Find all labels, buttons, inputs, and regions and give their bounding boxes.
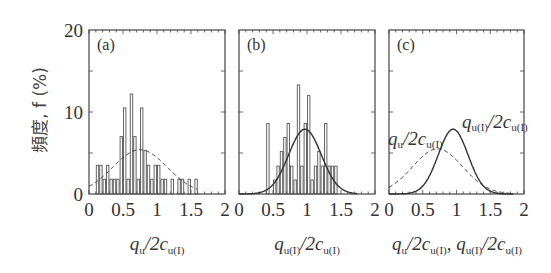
histogram-bar (120, 137, 122, 194)
histogram-bar (154, 165, 156, 194)
histogram-bar (195, 179, 197, 194)
x-tick-label: 1.5 (179, 199, 203, 220)
panel-a: 00.511.52(a) (84, 30, 230, 220)
plot-frame (89, 30, 225, 194)
histogram-bar (130, 94, 132, 194)
histogram-bar (113, 179, 115, 194)
histogram-bar (117, 179, 119, 194)
histogram-bar (277, 166, 279, 194)
histogram-bar (164, 179, 166, 194)
histogram-bar (304, 123, 306, 194)
x-tick-label: 0.5 (261, 199, 285, 220)
histogram-bar (96, 165, 98, 194)
y-axis-label: 頻度, f (%) (30, 67, 50, 153)
histogram-bar (161, 179, 163, 194)
histogram-bar (321, 166, 323, 194)
histogram-bar (107, 165, 109, 194)
distribution-curve (389, 149, 513, 194)
plot-frame (239, 30, 375, 194)
x-tick-label: 0.5 (411, 199, 435, 220)
x-tick-label: 2 (220, 199, 230, 220)
histogram-bar (171, 179, 173, 194)
histogram-bar (127, 179, 129, 194)
histogram-bar (335, 166, 337, 194)
panel-label: (a) (97, 36, 115, 54)
x-tick-label: 1.5 (329, 199, 353, 220)
x-tick-label: 0 (84, 199, 94, 220)
panel-label: (c) (397, 36, 415, 54)
panel-b: 00.511.52(b) (234, 30, 380, 220)
histogram-bar (147, 165, 149, 194)
histogram-bar (294, 180, 296, 194)
x-tick-label: 1 (452, 199, 462, 220)
histogram-bar (301, 166, 303, 194)
series-annotation: qu(I)/2cu(I) (462, 111, 528, 134)
series-annotation: qu/2cu(I) (388, 128, 443, 151)
histogram-bar (188, 179, 190, 194)
histogram-bar (103, 179, 105, 194)
x-tick-label: 1.5 (478, 199, 502, 220)
panel-label: (b) (247, 36, 266, 54)
x-tick-label: 0 (384, 199, 394, 220)
histogram-bar (100, 165, 102, 194)
fit-curve (239, 129, 357, 194)
chart-figure: 頻度, f (%)0102000.511.52(a)00.511.52(b)00… (0, 0, 551, 273)
x-tick-label: 0 (234, 199, 244, 220)
histogram-bar (144, 151, 146, 194)
histogram-bar (137, 179, 139, 194)
histogram-bar (178, 179, 180, 194)
histogram-bar (297, 85, 299, 194)
panel-c: 00.511.52(c)qu/2cu(I)qu(I)/2cu(I) (384, 30, 529, 220)
histogram-bar (124, 108, 126, 194)
y-tick-label: 20 (64, 20, 83, 41)
histogram-bar (141, 108, 143, 194)
x-tick-label: 0.5 (111, 199, 135, 220)
histogram-bar (314, 166, 316, 194)
x-axis-label: qu(I)/2cu(I) (274, 233, 340, 257)
histogram-bar (158, 165, 160, 194)
histogram-bar (308, 96, 310, 194)
histogram-bar (134, 137, 136, 194)
histogram-bar (311, 180, 313, 194)
y-tick-label: 0 (74, 184, 84, 205)
histogram-bar (318, 151, 320, 194)
histogram-bar (325, 123, 327, 194)
histogram-bar (110, 179, 112, 194)
x-tick-label: 1 (152, 199, 162, 220)
x-tick-label: 1 (302, 199, 312, 220)
histogram-bar (181, 179, 183, 194)
histogram-bar (151, 179, 153, 194)
x-tick-label: 2 (370, 199, 380, 220)
histogram-bar (267, 123, 269, 194)
x-axis-label: qu/2cu(I) (130, 233, 185, 257)
x-tick-label: 2 (519, 199, 529, 220)
histogram-bar (291, 166, 293, 194)
x-axis-label: qu/2cu(I), qu(I)/2cu(I) (392, 233, 522, 257)
y-tick-label: 10 (64, 102, 83, 123)
